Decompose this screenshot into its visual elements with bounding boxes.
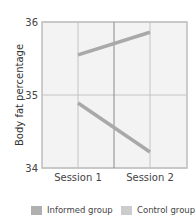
y-tick-label: 36 bbox=[25, 17, 38, 28]
legend-label-control: Control group bbox=[137, 205, 195, 215]
legend-item-control: Control group bbox=[121, 205, 195, 215]
legend-item-informed: Informed group bbox=[31, 205, 113, 215]
x-tick-label: Session 1 bbox=[54, 172, 102, 183]
legend: Informed group Control group bbox=[0, 205, 196, 220]
legend-label-informed: Informed group bbox=[47, 205, 113, 215]
y-tick-label: 35 bbox=[25, 90, 38, 101]
line-chart: 343536Session 1Session 2 Body fat percen… bbox=[0, 0, 196, 205]
y-axis-label: Body fat percentage bbox=[14, 44, 25, 146]
y-tick-label: 34 bbox=[25, 163, 38, 174]
legend-swatch-control bbox=[121, 206, 132, 215]
x-tick-label: Session 2 bbox=[126, 172, 174, 183]
legend-swatch-informed bbox=[31, 206, 42, 215]
